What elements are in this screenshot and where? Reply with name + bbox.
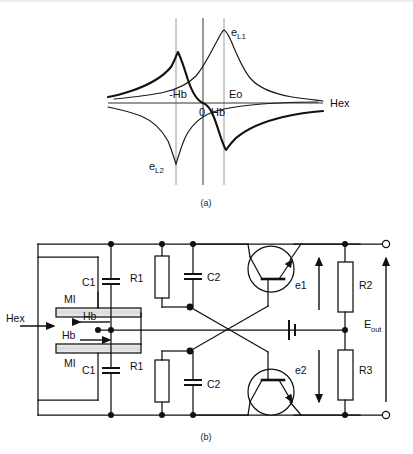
transistor-top-top-lead: [248, 244, 250, 257]
label-r1-bottom: R1: [130, 360, 144, 372]
panel-a-caption: (a): [186, 198, 226, 208]
label-mi-bottom: MI: [64, 357, 76, 369]
label-hb-top: Hb: [83, 310, 97, 322]
label-c2-top: C2: [207, 271, 221, 283]
label-c2-bottom: C2: [207, 378, 221, 390]
label-el2: e L2: [149, 160, 164, 175]
r1-top-body: [155, 256, 169, 298]
transistor-bot-out-lead: [290, 402, 301, 415]
panel-b-circuit: Hex Hb Hb MI MI C1 C1 R1 R1 C2 C2 e1 e2 …: [0, 222, 413, 437]
label-eout-subscript: out: [371, 325, 382, 334]
r1-bot-body: [155, 360, 169, 402]
curve-eo: [108, 52, 323, 150]
figure-container: e L1 e L2 Eo -Hb 0 Hb Hex (a): [0, 0, 413, 454]
label-hb-bottom: Hb: [62, 329, 76, 341]
label-r1-top: R1: [130, 272, 144, 284]
label-e2: e2: [295, 364, 307, 376]
transistor-bot-bot-lead: [248, 402, 250, 415]
panel-b-caption: (b): [186, 432, 226, 442]
panel-a-graph: e L1 e L2 Eo -Hb 0 Hb Hex: [0, 0, 413, 215]
curve-el1: [114, 30, 323, 101]
label-eo: Eo: [229, 88, 242, 100]
mi-element-top: [56, 308, 141, 317]
mi-element-bottom: [56, 344, 141, 353]
output-terminal-negative[interactable]: [382, 411, 389, 418]
label-zero: 0: [199, 106, 205, 118]
label-c1-bottom: C1: [82, 364, 96, 376]
label-hex-axis: Hex: [330, 97, 350, 109]
label-r2: R2: [359, 279, 373, 291]
transistor-top-out-lead: [290, 244, 301, 260]
r3-body: [338, 350, 353, 400]
svg-text:L2: L2: [155, 166, 164, 175]
output-terminal-positive[interactable]: [382, 240, 389, 247]
label-c1-top: C1: [82, 276, 96, 288]
transistor-top-envelope: [248, 246, 294, 292]
label-hex-input: Hex: [6, 312, 25, 324]
label-r3: R3: [359, 364, 373, 376]
label-neg-hb: -Hb: [169, 88, 187, 100]
r2-body: [338, 262, 353, 312]
label-e1: e1: [295, 279, 307, 291]
svg-text:L1: L1: [237, 32, 246, 41]
cross-wire-b: [190, 306, 268, 351]
label-hb: Hb: [211, 106, 225, 118]
label-el1: e L1: [231, 26, 246, 41]
label-mi-top: MI: [64, 293, 76, 305]
